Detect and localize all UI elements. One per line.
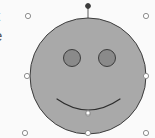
handle-top-right[interactable] (143, 13, 148, 18)
handle-middle-left[interactable] (24, 73, 29, 78)
anchor-mouth-vertex[interactable] (86, 111, 90, 115)
drawing-canvas[interactable]: t e (0, 0, 155, 138)
handle-bottom-left[interactable] (22, 130, 27, 135)
left-eye[interactable] (64, 50, 81, 67)
shape-layer (0, 0, 155, 138)
anchor-point-group[interactable] (86, 111, 90, 116)
handle-middle-right[interactable] (143, 73, 148, 78)
handle-bottom-right[interactable] (143, 130, 148, 135)
rotation-handle[interactable] (86, 4, 91, 9)
handle-bottom-center[interactable] (85, 130, 90, 135)
right-eye[interactable] (99, 50, 116, 67)
handle-top-left[interactable] (25, 13, 30, 18)
